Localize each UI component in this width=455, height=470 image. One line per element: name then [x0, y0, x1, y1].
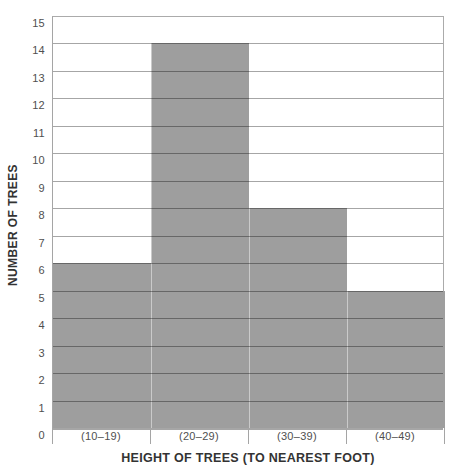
gridline-6: [53, 263, 443, 264]
gridline-7: [53, 236, 443, 237]
gridline-14: [53, 43, 443, 44]
y-tick-label-9: 9: [0, 182, 45, 194]
gridline-5: [53, 291, 443, 292]
x-axis-title: HEIGHT OF TREES (TO NEAREST FOOT): [52, 451, 444, 465]
y-tick-label-0: 0: [0, 429, 45, 441]
gridline-2: [53, 373, 443, 374]
y-tick-label-1: 1: [0, 402, 45, 414]
gridline-13: [53, 71, 443, 72]
gridline-8: [53, 208, 443, 209]
gridline-4: [53, 318, 443, 319]
y-tick-label-6: 6: [0, 264, 45, 276]
bin-separator: [347, 17, 348, 428]
y-tick-label-11: 11: [0, 127, 45, 139]
gridline-12: [53, 98, 443, 99]
histogram-figure: NUMBER OF TREES 0123456789101112131415 (…: [0, 0, 455, 470]
bar-4049: [347, 291, 445, 428]
y-tick-label-4: 4: [0, 319, 45, 331]
y-tick-label-12: 12: [0, 99, 45, 111]
bin-separator: [249, 17, 250, 428]
y-tick-label-7: 7: [0, 237, 45, 249]
gridline-3: [53, 346, 443, 347]
y-tick-label-8: 8: [0, 209, 45, 221]
x-tick-label-1: (10–19): [52, 430, 150, 443]
y-tick-label-5: 5: [0, 292, 45, 304]
y-tick-label-3: 3: [0, 347, 45, 359]
y-tick-label-14: 14: [0, 44, 45, 56]
y-tick-label-10: 10: [0, 154, 45, 166]
x-tick-label-3: (30–39): [248, 430, 346, 443]
y-tick-label-2: 2: [0, 374, 45, 386]
y-tick-label-13: 13: [0, 72, 45, 84]
x-tick-mark: [444, 428, 445, 444]
gridline-11: [53, 126, 443, 127]
bin-separator: [151, 17, 152, 428]
gridline-10: [53, 153, 443, 154]
plot-area: [52, 16, 444, 428]
y-tick-label-15: 15: [0, 17, 45, 29]
x-tick-label-4: (40–49): [346, 430, 444, 443]
gridline-1: [53, 401, 443, 402]
x-tick-label-2: (20–29): [150, 430, 248, 443]
gridline-9: [53, 181, 443, 182]
